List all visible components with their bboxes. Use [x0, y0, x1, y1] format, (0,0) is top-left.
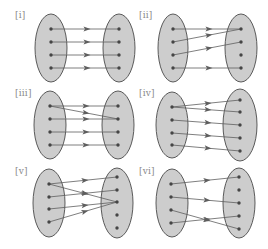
left-set-element-dot: [47, 207, 50, 210]
right-set-element-dot: [115, 213, 118, 216]
left-set-element-dot: [48, 130, 51, 133]
panel-label-i: [i]: [15, 11, 26, 20]
right-set-element-dot: [238, 149, 241, 152]
left-set-element-dot: [47, 195, 50, 198]
left-set-ellipse: [35, 14, 67, 82]
mapping-panel-ii: [158, 14, 257, 82]
arrowhead-icon: [82, 110, 90, 116]
left-set-element-dot: [49, 40, 52, 43]
left-set-element-dot: [47, 182, 50, 185]
right-set-element-dot: [117, 27, 120, 30]
right-set-element-dot: [237, 227, 240, 230]
left-set-element-dot: [49, 27, 52, 30]
left-set-element-dot: [171, 40, 174, 43]
arrowhead-icon: [205, 45, 213, 51]
right-set-ellipse: [103, 14, 135, 82]
left-set-element-dot: [49, 53, 52, 56]
left-set-ellipse: [158, 14, 188, 82]
left-set-element-dot: [169, 208, 172, 211]
right-set-element-dot: [115, 200, 118, 203]
right-set-element-dot: [239, 53, 242, 56]
right-set-element-dot: [117, 40, 120, 43]
right-set-element-dot: [116, 130, 119, 133]
left-set-element-dot: [170, 118, 173, 121]
left-set-element-dot: [48, 143, 51, 146]
mapping-panel-vi: [156, 168, 255, 238]
right-set-element-dot: [239, 66, 242, 69]
right-set-element-dot: [117, 66, 120, 69]
right-set-element-dot: [238, 123, 241, 126]
right-set-element-dot: [116, 117, 119, 120]
left-set-ellipse: [34, 91, 66, 159]
panels-layer: [33, 14, 257, 238]
mapping-diagrams-canvas: [0, 0, 268, 249]
left-set-element-dot: [169, 195, 172, 198]
arrowhead-icon: [205, 32, 213, 38]
left-set-element-dot: [48, 117, 51, 120]
arrowhead-icon: [81, 208, 89, 215]
mapping-panel-v: [33, 168, 133, 238]
right-set-element-dot: [238, 98, 241, 101]
right-set-element-dot: [239, 40, 242, 43]
left-set-element-dot: [48, 104, 51, 107]
right-set-element-dot: [238, 110, 241, 113]
mapping-panel-i: [35, 14, 135, 82]
right-set-element-dot: [239, 27, 242, 30]
mapping-panel-iv: [156, 89, 257, 161]
right-set-element-dot: [116, 104, 119, 107]
left-set-element-dot: [170, 105, 173, 108]
left-set-element-dot: [169, 182, 172, 185]
panel-label-vi: [vi]: [139, 167, 155, 176]
left-set-ellipse: [156, 92, 188, 158]
left-set-ellipse: [33, 169, 65, 237]
panel-label-iv: [iv]: [139, 89, 155, 98]
left-set-element-dot: [170, 131, 173, 134]
left-set-element-dot: [47, 220, 50, 223]
mapping-panel-iii: [34, 91, 134, 159]
right-set-element-dot: [237, 214, 240, 217]
left-set-element-dot: [171, 53, 174, 56]
right-set-element-dot: [116, 143, 119, 146]
right-set-element-dot: [237, 188, 240, 191]
right-set-element-dot: [115, 188, 118, 191]
left-set-element-dot: [49, 66, 52, 69]
right-set-ellipse: [225, 14, 257, 82]
right-set-element-dot: [238, 136, 241, 139]
left-set-ellipse: [156, 169, 188, 237]
right-set-element-dot: [117, 53, 120, 56]
left-set-element-dot: [171, 27, 174, 30]
panel-label-v: [v]: [15, 167, 28, 176]
left-set-element-dot: [170, 143, 173, 146]
right-set-ellipse: [102, 91, 134, 159]
right-set-element-dot: [237, 175, 240, 178]
right-set-element-dot: [237, 201, 240, 204]
right-set-element-dot: [115, 226, 118, 229]
left-set-element-dot: [169, 221, 172, 224]
left-set-element-dot: [171, 66, 174, 69]
panel-label-ii: [ii]: [139, 11, 153, 20]
right-set-element-dot: [115, 175, 118, 178]
panel-label-iii: [iii]: [15, 89, 32, 98]
